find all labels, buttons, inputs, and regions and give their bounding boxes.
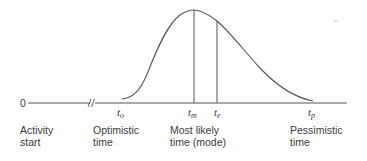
- label-t-mode: tm: [188, 106, 197, 120]
- caption-line: time: [290, 136, 343, 148]
- caption-pessimistic-time: Pessimistic time: [290, 124, 343, 148]
- caption-line: start: [20, 136, 53, 148]
- label-t-expected: te: [214, 106, 221, 120]
- caption-line: time: [93, 136, 139, 148]
- origin-label: 0: [20, 97, 26, 109]
- t-subscript: o: [120, 111, 124, 120]
- label-t-pessimistic: tp: [308, 106, 315, 120]
- caption-most-likely-time: Most likely time (mode): [170, 124, 226, 148]
- caption-line: Pessimistic: [290, 124, 343, 136]
- caption-line: Activity: [20, 124, 53, 136]
- caption-line: Optimistic: [93, 124, 139, 136]
- caption-activity-start: Activity start: [20, 124, 53, 148]
- stray-dot: [335, 20, 336, 21]
- t-subscript: p: [311, 111, 315, 120]
- caption-line: time (mode): [170, 136, 226, 148]
- caption-line: Most likely: [170, 124, 226, 136]
- t-subscript: m: [191, 111, 197, 120]
- caption-optimistic-time: Optimistic time: [93, 124, 139, 148]
- label-t-optimistic: to: [117, 106, 124, 120]
- pert-time-distribution-diagram: 0 to tm te tp Activity start Optimistic …: [0, 0, 367, 161]
- t-subscript: e: [217, 111, 221, 120]
